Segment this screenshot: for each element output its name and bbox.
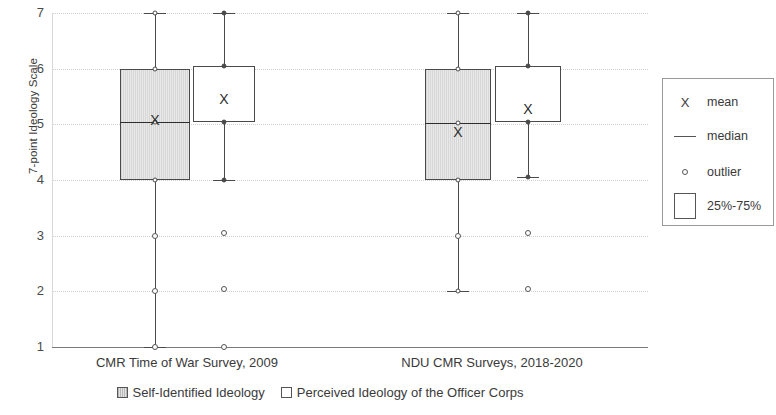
quartile-knot-q3-s1-c1 [526, 63, 531, 68]
gridline [52, 291, 648, 292]
series-legend-label-perceived: Perceived Ideology of the Officer Corps [297, 385, 524, 400]
quartile-knot-q1-s1-c1 [526, 119, 531, 124]
outlier-circle-icon [663, 169, 707, 175]
y-axis-line [52, 13, 53, 347]
whisker-knot-high-s1-c0 [222, 11, 227, 16]
x-axis-label-group-2: NDU CMR Surveys, 2018-2020 [401, 355, 582, 370]
shaded-box-swatch-icon [117, 387, 128, 398]
legend-panel: X mean median outlier 25%-75% [662, 78, 774, 226]
legend-label-quartile: 25%-75% [707, 199, 761, 213]
gridline [52, 13, 648, 14]
whisker-knot-high-s0-c0 [153, 11, 158, 16]
outlier-point-s1-c0-1 [221, 286, 227, 292]
y-axis-tick-3: 3 [18, 229, 44, 242]
boxplot-chart: 7-point Ideology Scale 1234567XXXX CMR T… [0, 0, 776, 415]
legend-row-median: median [663, 121, 775, 151]
whisker-knot-high-s0-c1 [456, 11, 461, 16]
quartile-knot-q3-s0-c1 [456, 66, 461, 71]
outlier-point-s0-c0-0 [152, 233, 158, 239]
legend-label-mean: mean [707, 95, 738, 109]
series-legend-item-perceived[interactable]: Perceived Ideology of the Officer Corps [281, 385, 524, 400]
outlier-point-s1-c1-0 [525, 230, 531, 236]
mean-x-icon: X [663, 95, 707, 110]
y-axis-tick-4: 4 [18, 173, 44, 186]
y-axis-tick-6: 6 [18, 62, 44, 75]
legend-label-median: median [707, 129, 748, 143]
y-axis-tick-1: 1 [18, 340, 44, 353]
quartile-knot-q1-s0-c0 [153, 178, 158, 183]
whisker-knot-low-s1-c1 [526, 175, 531, 180]
x-axis-line [52, 347, 648, 348]
legend-row-mean: X mean [663, 87, 775, 117]
quartile-knot-q3-s1-c0 [222, 63, 227, 68]
gridline [52, 180, 648, 181]
whisker-knot-high-s1-c1 [526, 11, 531, 16]
legend-row-quartile: 25%-75% [663, 191, 775, 221]
y-axis-tick-5: 5 [18, 117, 44, 130]
plain-box-swatch-icon [281, 387, 292, 398]
outlier-point-s0-c1-0 [455, 233, 461, 239]
y-axis-tick-7: 7 [18, 6, 44, 19]
outlier-point-s1-c0-2 [221, 344, 227, 350]
quartile-knot-q3-s0-c0 [153, 66, 158, 71]
median-line-icon [663, 136, 707, 137]
mean-marker-s1-c0: X [219, 92, 228, 106]
quartile-knot-q1-s0-c1 [456, 178, 461, 183]
series-legend-item-self-identified[interactable]: Self-Identified Ideology [117, 385, 265, 400]
outlier-point-s0-c0-1 [152, 288, 158, 294]
whisker-knot-low-s0-c1 [456, 289, 461, 294]
outlier-point-s1-c1-1 [525, 286, 531, 292]
legend-row-outlier: outlier [663, 157, 775, 187]
quartile-box-icon [663, 193, 707, 219]
mean-marker-s0-c1: X [453, 125, 462, 139]
quartile-knot-q1-s1-c0 [222, 119, 227, 124]
outlier-point-s0-c0-2 [152, 344, 158, 350]
mean-marker-s1-c1: X [523, 102, 532, 116]
mean-marker-s0-c0: X [150, 113, 159, 127]
outlier-point-s1-c0-0 [221, 230, 227, 236]
x-axis-label-group-1: CMR Time of War Survey, 2009 [96, 355, 278, 370]
series-legend-label-self-identified: Self-Identified Ideology [133, 385, 265, 400]
whisker-knot-low-s1-c0 [222, 178, 227, 183]
series-legend: Self-Identified Ideology Perceived Ideol… [0, 385, 640, 400]
y-axis-tick-2: 2 [18, 284, 44, 297]
legend-label-outlier: outlier [707, 165, 741, 179]
gridline [52, 236, 648, 237]
